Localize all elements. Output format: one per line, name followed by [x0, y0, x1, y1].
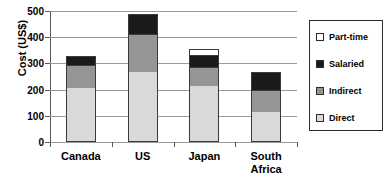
legend-item-indirect[interactable]: Indirect	[316, 86, 362, 96]
y-axis-tick-label: 100	[14, 111, 44, 122]
bar-stack	[128, 14, 158, 142]
bar-stack	[66, 56, 96, 142]
bar-segment-direct[interactable]	[251, 112, 281, 142]
stacked-bar-chart: Cost (US$) 5004003002001000 CanadaUSJapa…	[0, 0, 388, 184]
y-axis-tick-label: 200	[14, 85, 44, 96]
legend-label: Part-time	[329, 32, 368, 42]
plot-area	[50, 11, 297, 142]
bar-segment-salaried[interactable]	[128, 14, 158, 34]
y-axis-tick-label: 500	[14, 6, 44, 17]
legend-swatch-icon	[316, 60, 324, 68]
bar-group[interactable]	[66, 11, 96, 142]
legend-swatch-icon	[316, 114, 324, 122]
y-axis-tick-label: 0	[14, 137, 44, 148]
bar-segment-salaried[interactable]	[189, 55, 219, 67]
bar-segment-direct[interactable]	[66, 88, 96, 142]
legend-item-direct[interactable]: Direct	[316, 113, 355, 123]
bar-stack	[189, 49, 219, 142]
legend-label: Salaried	[329, 59, 364, 69]
bar-group[interactable]	[251, 11, 281, 142]
bar-segment-direct[interactable]	[189, 86, 219, 142]
legend-item-salaried[interactable]: Salaried	[316, 59, 364, 69]
x-axis-tick-mark	[174, 142, 175, 147]
x-axis-category-label: SouthAfrica	[230, 150, 302, 176]
legend-label: Indirect	[329, 86, 362, 96]
bar-segment-direct[interactable]	[128, 72, 158, 142]
bar-stack	[251, 72, 281, 142]
bar-segment-indirect[interactable]	[66, 65, 96, 89]
y-axis-tick-label: 300	[14, 58, 44, 69]
x-axis-tick-mark	[112, 142, 113, 147]
x-axis-tick-mark	[235, 142, 236, 147]
bar-segment-indirect[interactable]	[189, 67, 219, 87]
bar-segment-salaried[interactable]	[66, 56, 96, 65]
bar-segment-salaried[interactable]	[251, 72, 281, 90]
bar-segment-indirect[interactable]	[128, 34, 158, 71]
bar-group[interactable]	[189, 11, 219, 142]
x-axis-tick-mark	[297, 142, 298, 147]
y-axis-tick-label: 400	[14, 32, 44, 43]
legend-swatch-icon	[316, 87, 324, 95]
legend-label: Direct	[329, 113, 355, 123]
legend: Part-timeSalariedIndirectDirect	[309, 20, 383, 131]
bar-group[interactable]	[128, 11, 158, 142]
bar-segment-indirect[interactable]	[251, 90, 281, 112]
legend-swatch-icon	[316, 33, 324, 41]
legend-item-part-time[interactable]: Part-time	[316, 32, 368, 42]
x-axis-tick-mark	[50, 142, 51, 147]
